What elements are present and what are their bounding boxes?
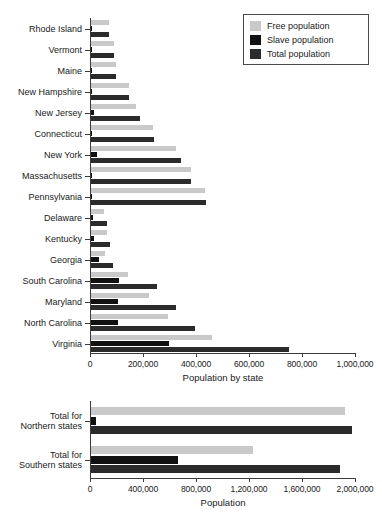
bar-total [91, 200, 206, 205]
bar-free [91, 104, 136, 109]
chart-population-by-state: Population by state Rhode IslandVermontM… [0, 0, 382, 390]
x-axis-tick [249, 478, 250, 482]
y-axis-tick [85, 344, 90, 345]
bar-slave [91, 131, 92, 136]
bar-slave [91, 320, 118, 325]
bar-free [91, 83, 129, 88]
plot-area-by-state [90, 18, 356, 354]
bar-total [91, 179, 191, 184]
x-axis-tick [196, 478, 197, 482]
bar-slave [91, 215, 93, 220]
bar-free [91, 230, 107, 235]
x-axis-tick [90, 478, 91, 482]
x-axis-tick [302, 353, 303, 357]
y-axis-label-connecticut: Connecticut [0, 128, 82, 139]
bar-slave [91, 194, 92, 199]
x-axis-tick-label: 400,000 [128, 484, 158, 494]
y-axis-label-pennsylvania: Pennsylvania [0, 191, 82, 202]
y-axis-tick [85, 302, 90, 303]
y-axis-tick [85, 460, 90, 461]
bar-slave [91, 278, 119, 283]
bar-total [91, 465, 340, 473]
y-axis-label-new-hampshire: New Hampshire [0, 86, 82, 97]
y-axis-tick [85, 323, 90, 324]
x-axis-tick-label: 200,000 [128, 359, 158, 369]
y-axis-tick [85, 260, 90, 261]
bar-total [91, 284, 157, 289]
y-axis-tick [85, 239, 90, 240]
y-axis-label-north-carolina: North Carolina [0, 317, 82, 328]
x-axis-tick [249, 353, 250, 357]
bar-slave [91, 68, 92, 73]
x-axis-line [90, 478, 356, 479]
y-axis-label-maine: Maine [0, 65, 82, 76]
bar-slave [91, 236, 94, 241]
x-axis-tick-label: 600,000 [234, 359, 264, 369]
bar-free [91, 293, 149, 298]
chart-regional-totals: Population Total forNorthern statesTotal… [0, 393, 382, 521]
x-axis-tick [302, 478, 303, 482]
bar-total [91, 137, 154, 142]
y-axis-label-new-york: New York [0, 149, 82, 160]
y-axis-label-virginia: Virginia [0, 338, 82, 349]
x-axis-tick-label: 800,000 [181, 484, 211, 494]
bar-free [91, 167, 191, 172]
bar-free [91, 272, 128, 277]
bar-total [91, 95, 129, 100]
bar-free [91, 251, 105, 256]
bar-total [91, 116, 140, 121]
y-axis-label-massachusetts: Massachusetts [0, 170, 82, 181]
x-axis-tick [90, 353, 91, 357]
bar-total [91, 347, 289, 352]
y-axis-tick [85, 218, 90, 219]
bar-free [91, 41, 114, 46]
x-axis-tick-label: 800,000 [287, 359, 317, 369]
y-axis-tick [85, 92, 90, 93]
y-axis-tick [85, 29, 90, 30]
bar-total [91, 32, 109, 37]
bar-free [91, 314, 168, 319]
y-axis-tick [85, 421, 90, 422]
x-axis-tick-label: 1,600,000 [284, 484, 321, 494]
bar-total [91, 263, 113, 268]
bar-free [91, 209, 104, 214]
y-axis-tick [85, 113, 90, 114]
y-axis-label-south-carolina: South Carolina [0, 275, 82, 286]
bar-total [91, 221, 107, 226]
figure-canvas: Free population Slave population Total p… [0, 0, 382, 521]
bar-slave [91, 26, 92, 31]
x-axis-line [90, 353, 356, 354]
y-axis-label-maryland: Maryland [0, 296, 82, 307]
bar-slave [91, 89, 92, 94]
y-axis-label-vermont: Vermont [0, 44, 82, 55]
y-axis-tick [85, 197, 90, 198]
bar-slave [91, 299, 118, 304]
bar-total [91, 305, 176, 310]
y-axis-tick [85, 155, 90, 156]
x-axis-tick-label: 0 [88, 484, 93, 494]
y-axis-label-delaware: Delaware [0, 212, 82, 223]
bar-free [91, 446, 253, 454]
bar-total [91, 242, 110, 247]
bar-free [91, 146, 176, 151]
bar-slave [91, 173, 92, 178]
x-axis-tick-label: 1,000,000 [337, 359, 374, 369]
bar-total [91, 53, 114, 58]
x-axis-tick [196, 353, 197, 357]
bar-free [91, 335, 212, 340]
bar-free [91, 62, 116, 67]
x-axis-tick-label: 400,000 [181, 359, 211, 369]
x-axis-tick-label: 0 [88, 359, 93, 369]
bar-slave [91, 152, 97, 157]
y-axis-label-kentucky: Kentucky [0, 233, 82, 244]
x-axis-tick-label: 1,200,000 [231, 484, 268, 494]
bar-slave [91, 257, 99, 262]
y-axis-tick [85, 281, 90, 282]
y-axis-tick [85, 176, 90, 177]
bar-total [91, 158, 181, 163]
bar-slave [91, 341, 169, 346]
bar-free [91, 407, 345, 415]
bar-slave [91, 417, 96, 425]
x-axis-tick [143, 353, 144, 357]
y-axis-tick [85, 71, 90, 72]
